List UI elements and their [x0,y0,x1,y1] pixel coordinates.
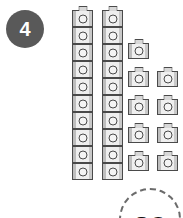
single-cube-row [128,150,183,171]
cube-connector-nub-icon [78,6,87,11]
cube-connector-nub-icon [134,151,143,156]
cube-face-circle-icon [108,133,117,142]
cube-face-circle-icon [78,150,87,159]
unit-cube-icon [102,112,123,129]
cube-stack-2 [102,10,123,180]
unit-cube-icon [72,95,93,112]
cube-face-circle-icon [108,116,117,125]
cube-face-circle-icon [78,167,87,176]
unit-cube-icon [157,127,178,143]
cube-stack-1 [72,10,93,180]
cube-connector-nub-icon [163,151,172,156]
unit-cube-icon [102,146,123,163]
cube-connector-nub-icon [134,67,143,72]
unit-cube-icon [72,61,93,78]
unit-cube-icon [102,78,123,95]
unit-cube-icon [128,43,149,59]
cube-connector-nub-icon [163,67,172,72]
cube-connector-nub-icon [163,95,172,100]
cube-face-circle-icon [78,99,87,108]
cube-face-circle-icon [78,48,87,57]
unit-cube-icon [128,71,149,87]
answer-bubble[interactable]: 29 [119,188,181,218]
cube-face-circle-icon [108,150,117,159]
unit-cube-icon [72,112,93,129]
cube-face-circle-icon [163,131,172,140]
unit-cube-icon [72,44,93,61]
cube-face-circle-icon [163,103,172,112]
unit-cube-icon [128,127,149,143]
unit-cube-icon [102,163,123,180]
cube-face-circle-icon [108,31,117,40]
cube-face-circle-icon [134,131,143,140]
unit-cube-icon [72,146,93,163]
unit-cube-icon [102,27,123,44]
cube-face-circle-icon [134,103,143,112]
unit-cube-icon [102,61,123,78]
cube-face-circle-icon [134,159,143,168]
single-cubes-group [128,38,183,178]
unit-cube-icon [157,155,178,171]
unit-cube-icon [72,27,93,44]
cube-face-circle-icon [78,116,87,125]
unit-cube-icon [102,95,123,112]
cube-face-circle-icon [78,133,87,142]
cube-face-circle-icon [108,14,117,23]
question-number-badge: 4 [6,10,44,48]
single-cube-row [128,38,183,59]
worksheet-page: 4 [0,0,183,218]
unit-cube-icon [102,10,123,27]
unit-cube-icon [102,129,123,146]
cube-connector-nub-icon [108,6,117,11]
cube-face-circle-icon [163,75,172,84]
cube-connector-nub-icon [134,95,143,100]
answer-value: 29 [133,212,166,218]
unit-cube-icon [72,10,93,27]
cube-face-circle-icon [108,99,117,108]
question-number-text: 4 [19,19,30,39]
cube-face-circle-icon [134,47,143,56]
unit-cube-icon [157,71,178,87]
cube-face-circle-icon [78,31,87,40]
cube-face-circle-icon [163,159,172,168]
cube-face-circle-icon [134,75,143,84]
unit-cube-icon [102,44,123,61]
unit-cube-icon [128,155,149,171]
cube-connector-nub-icon [134,123,143,128]
single-cube-row [128,94,183,115]
unit-cube-icon [72,78,93,95]
single-cube-row [128,66,183,87]
single-cube-row [128,122,183,143]
unit-cube-icon [128,99,149,115]
cube-connector-nub-icon [134,39,143,44]
cube-face-circle-icon [78,82,87,91]
cube-face-circle-icon [108,48,117,57]
cube-face-circle-icon [108,65,117,74]
cube-face-circle-icon [108,167,117,176]
cube-face-circle-icon [78,14,87,23]
cube-connector-nub-icon [163,123,172,128]
unit-cube-icon [72,129,93,146]
unit-cube-icon [157,99,178,115]
cube-face-circle-icon [108,82,117,91]
cube-face-circle-icon [78,65,87,74]
unit-cube-icon [72,163,93,180]
